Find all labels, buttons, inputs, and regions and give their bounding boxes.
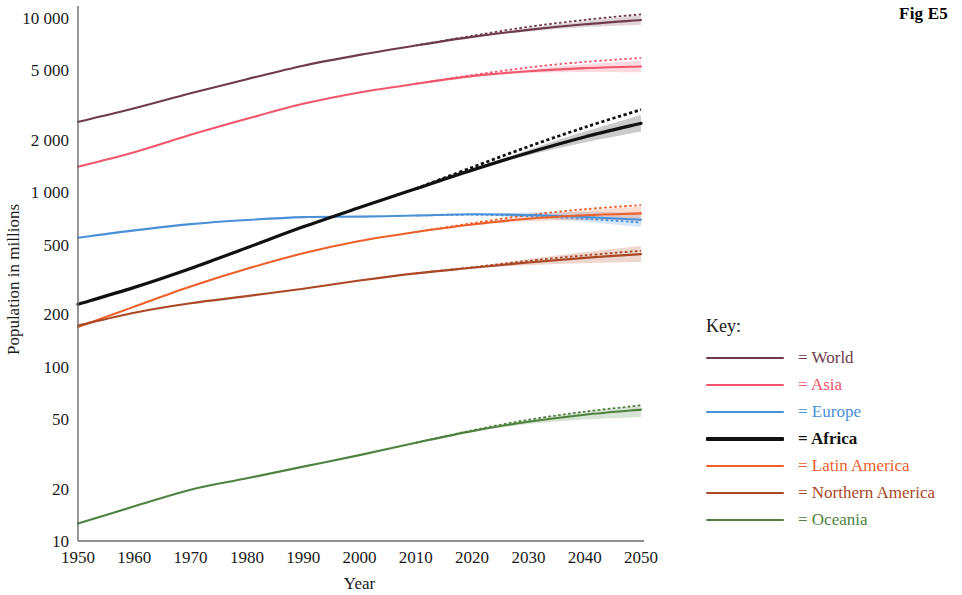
x-tick-label: 1950 — [61, 548, 95, 567]
figure-root: Fig E5 1020501002005001 0002 0005 00010 … — [0, 0, 962, 595]
series-line — [78, 410, 641, 524]
legend-item: = Europe — [706, 398, 958, 425]
legend-line-swatch — [706, 492, 784, 494]
legend-item: = Northern America — [706, 479, 958, 506]
series-lines — [78, 20, 641, 523]
legend-item-label: = Europe — [792, 402, 861, 422]
legend-line-swatch — [706, 384, 784, 386]
legend-line-swatch — [706, 357, 784, 359]
x-axis-title: Year — [344, 574, 376, 593]
axis-tick-labels: 1020501002005001 0002 0005 00010 0001950… — [22, 9, 658, 567]
figure-label: Fig E5 — [899, 4, 948, 24]
series-line — [78, 254, 641, 325]
legend-swatch-wrap — [706, 465, 792, 467]
y-tick-label: 5 000 — [31, 61, 69, 80]
legend-line-swatch — [706, 519, 784, 521]
y-tick-label: 10 000 — [22, 9, 69, 28]
y-tick-label: 200 — [44, 305, 70, 324]
legend-item: = World — [706, 344, 958, 371]
x-tick-label: 1970 — [174, 548, 208, 567]
legend-item-label: = Asia — [792, 375, 842, 395]
y-tick-label: 100 — [44, 358, 70, 377]
legend-item: = Africa — [706, 425, 958, 452]
legend-item-label: = Africa — [792, 429, 857, 449]
legend-swatch-wrap — [706, 519, 792, 521]
x-tick-label: 2030 — [511, 548, 545, 567]
legend-swatch-wrap — [706, 411, 792, 413]
legend-item-label: = Latin America — [792, 456, 910, 476]
legend-swatch-wrap — [706, 437, 792, 441]
legend-item-label: = Oceania — [792, 510, 868, 530]
legend-line-swatch — [706, 411, 784, 413]
chart-legend: Key: = World= Asia= Europe= Africa= Lati… — [706, 317, 958, 533]
legend-item: = Latin America — [706, 452, 958, 479]
y-tick-label: 20 — [52, 480, 69, 499]
legend-item-label: = World — [792, 348, 854, 368]
legend-swatch-wrap — [706, 384, 792, 386]
y-tick-label: 1 000 — [31, 183, 69, 202]
x-tick-label: 2050 — [624, 548, 658, 567]
series-line — [78, 67, 641, 167]
legend-line-swatch — [706, 465, 784, 467]
legend-item: = Asia — [706, 371, 958, 398]
y-axis-title: Population in millions — [4, 204, 23, 355]
legend-item: = Oceania — [706, 506, 958, 533]
series-line — [78, 213, 641, 327]
legend-rows: = World= Asia= Europe= Africa= Latin Ame… — [706, 344, 958, 533]
y-tick-label: 50 — [52, 410, 69, 429]
y-tick-label: 500 — [44, 236, 70, 255]
x-tick-label: 2000 — [343, 548, 377, 567]
y-tick-label: 2 000 — [31, 131, 69, 150]
legend-swatch-wrap — [706, 492, 792, 494]
legend-line-swatch — [706, 437, 784, 441]
legend-title: Key: — [706, 317, 958, 335]
x-tick-label: 1990 — [286, 548, 320, 567]
x-tick-label: 2040 — [568, 548, 602, 567]
x-tick-label: 1960 — [117, 548, 151, 567]
x-tick-label: 2020 — [455, 548, 489, 567]
axes — [78, 6, 644, 541]
x-tick-label: 1980 — [230, 548, 264, 567]
legend-swatch-wrap — [706, 357, 792, 359]
x-tick-label: 2010 — [399, 548, 433, 567]
legend-item-label: = Northern America — [792, 483, 935, 503]
uncertainty-band — [416, 406, 641, 443]
population-projection-chart: 1020501002005001 0002 0005 00010 0001950… — [0, 0, 700, 595]
